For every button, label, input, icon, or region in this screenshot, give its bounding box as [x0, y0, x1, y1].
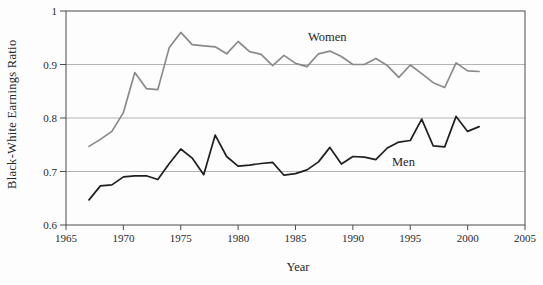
y-tick-label: 0.7 [43, 166, 57, 178]
earnings-ratio-line-chart: 0.60.70.80.91196519701975198019851990199… [0, 0, 543, 285]
y-axis-title: Black-White Earnings Ratio [5, 47, 21, 189]
x-tick-label: 1985 [285, 232, 308, 244]
women-line [89, 32, 479, 146]
x-axis: 196519701975198019851990199520002005 [55, 225, 537, 244]
men-series-label: Men [392, 155, 415, 170]
y-tick-label: 0.9 [43, 59, 57, 71]
black-white-earnings-ratio-figure: 0.60.70.80.91196519701975198019851990199… [0, 0, 543, 285]
x-tick-label: 1995 [399, 232, 422, 244]
x-tick-label: 1990 [342, 232, 365, 244]
x-tick-label: 1980 [227, 232, 250, 244]
x-tick-label: 1965 [55, 232, 78, 244]
y-tick-label: 0.6 [43, 219, 57, 231]
x-tick-label: 2005 [514, 232, 537, 244]
y-tick-label: 0.8 [43, 112, 57, 124]
y-tick-label: 1 [52, 5, 58, 17]
women-series-label: Women [308, 30, 347, 45]
men-line [89, 116, 479, 199]
x-tick-label: 1970 [112, 232, 135, 244]
x-tick-label: 2000 [457, 232, 480, 244]
x-tick-label: 1975 [170, 232, 193, 244]
x-axis-title: Year [268, 260, 328, 275]
y-axis: 0.60.70.80.91 [43, 5, 66, 231]
